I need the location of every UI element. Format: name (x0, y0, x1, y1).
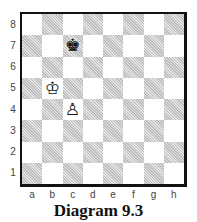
rank-label-5: 5 (8, 82, 18, 93)
rank-label-7: 7 (8, 40, 18, 51)
square-e8 (103, 14, 123, 35)
square-a7 (22, 35, 42, 56)
square-a4 (22, 99, 42, 120)
rank-label-8: 8 (8, 19, 18, 30)
rank-label-3: 3 (8, 125, 18, 136)
square-b2 (42, 142, 62, 163)
chess-board: ♚♔♙ (20, 12, 187, 187)
file-label-d: d (83, 189, 103, 200)
square-c8 (63, 14, 83, 35)
square-h4 (164, 99, 184, 120)
square-b3 (42, 120, 62, 141)
file-label-a: a (22, 189, 42, 200)
square-g6 (144, 57, 164, 78)
square-e4 (103, 99, 123, 120)
square-b4 (42, 99, 62, 120)
square-b8 (42, 14, 62, 35)
square-a3 (22, 120, 42, 141)
rank-label-6: 6 (8, 61, 18, 72)
square-b1 (42, 163, 62, 184)
square-f2 (123, 142, 143, 163)
square-e7 (103, 35, 123, 56)
white-king-icon: ♔ (45, 80, 60, 97)
square-f5 (123, 78, 143, 99)
square-d4 (83, 99, 103, 120)
file-label-f: f (123, 189, 143, 200)
square-f7 (123, 35, 143, 56)
square-d8 (83, 14, 103, 35)
square-b6 (42, 57, 62, 78)
square-d6 (83, 57, 103, 78)
square-b5: ♔ (42, 78, 62, 99)
square-h3 (164, 120, 184, 141)
file-label-g: g (144, 189, 164, 200)
square-a8 (22, 14, 42, 35)
square-e5 (103, 78, 123, 99)
black-king-icon: ♚ (65, 37, 80, 54)
square-c3 (63, 120, 83, 141)
square-c4: ♙ (63, 99, 83, 120)
square-c5 (63, 78, 83, 99)
square-g8 (144, 14, 164, 35)
square-d1 (83, 163, 103, 184)
file-label-b: b (42, 189, 62, 200)
square-g4 (144, 99, 164, 120)
square-f6 (123, 57, 143, 78)
square-h1 (164, 163, 184, 184)
file-label-c: c (63, 189, 83, 200)
square-d3 (83, 120, 103, 141)
rank-label-2: 2 (8, 146, 18, 157)
square-d2 (83, 142, 103, 163)
square-e3 (103, 120, 123, 141)
square-c1 (63, 163, 83, 184)
square-e1 (103, 163, 123, 184)
square-f4 (123, 99, 143, 120)
white-pawn-icon: ♙ (65, 101, 80, 118)
square-g5 (144, 78, 164, 99)
square-g7 (144, 35, 164, 56)
square-h8 (164, 14, 184, 35)
rank-label-4: 4 (8, 104, 18, 115)
square-a2 (22, 142, 42, 163)
square-h2 (164, 142, 184, 163)
square-c6 (63, 57, 83, 78)
square-e2 (103, 142, 123, 163)
square-c2 (63, 142, 83, 163)
square-a5 (22, 78, 42, 99)
square-g2 (144, 142, 164, 163)
square-h7 (164, 35, 184, 56)
square-d7 (83, 35, 103, 56)
square-c7: ♚ (63, 35, 83, 56)
rank-label-1: 1 (8, 167, 18, 178)
diagram-caption: Diagram 9.3 (0, 201, 197, 221)
square-d5 (83, 78, 103, 99)
square-a1 (22, 163, 42, 184)
square-e6 (103, 57, 123, 78)
square-b7 (42, 35, 62, 56)
square-f1 (123, 163, 143, 184)
square-g3 (144, 120, 164, 141)
square-f3 (123, 120, 143, 141)
square-g1 (144, 163, 164, 184)
file-label-h: h (164, 189, 184, 200)
square-a6 (22, 57, 42, 78)
square-f8 (123, 14, 143, 35)
square-h6 (164, 57, 184, 78)
file-label-e: e (103, 189, 123, 200)
square-h5 (164, 78, 184, 99)
